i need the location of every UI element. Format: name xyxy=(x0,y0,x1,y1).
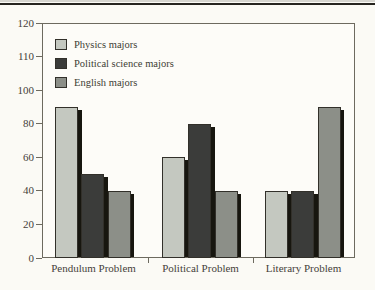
figure-top-rule xyxy=(0,3,375,5)
bar-english-majors-pendulum-problem xyxy=(108,191,131,258)
y-axis-tick-label: 100 xyxy=(6,85,34,96)
y-axis-tick-label: 40 xyxy=(6,185,34,196)
y-axis-tick xyxy=(36,224,42,225)
bar-physics-majors-political-problem xyxy=(162,157,185,258)
x-axis-category-label: Literary Problem xyxy=(244,262,364,274)
y-axis-tick-label: 110 xyxy=(6,51,34,62)
bar-physics-majors-literary-problem xyxy=(265,191,288,258)
y-axis-tick xyxy=(36,56,42,57)
x-axis-separator-tick xyxy=(253,258,254,263)
y-axis-tick xyxy=(36,23,42,24)
y-axis-tick-label: 20 xyxy=(6,219,34,230)
page-top-edge xyxy=(0,0,375,2)
legend-label: English majors xyxy=(74,77,137,88)
y-axis-tick-label: 0 xyxy=(6,253,34,264)
bar-political-science-majors-pendulum-problem xyxy=(81,174,104,258)
bar-english-majors-political-problem xyxy=(215,191,238,258)
bar-physics-majors-pendulum-problem xyxy=(55,107,78,258)
y-axis-tick-label: 120 xyxy=(6,18,34,29)
y-axis-tick xyxy=(36,157,42,158)
legend-item: Political science majors xyxy=(55,54,174,73)
y-axis-tick xyxy=(36,90,42,91)
bar-shadow xyxy=(238,194,242,257)
bar-political-science-majors-literary-problem xyxy=(291,191,314,258)
legend-swatch xyxy=(55,58,67,69)
legend-swatch xyxy=(55,77,67,88)
x-axis-separator-tick xyxy=(148,258,149,263)
scanned-bar-chart-figure: 120110100806040200 Pendulum ProblemPolit… xyxy=(0,0,375,290)
y-axis-tick-label: 60 xyxy=(6,152,34,163)
bar-political-science-majors-political-problem xyxy=(188,124,211,258)
x-axis-category-label: Political Problem xyxy=(141,262,261,274)
legend-label: Political science majors xyxy=(74,58,174,69)
legend-item: Physics majors xyxy=(55,35,174,54)
y-axis-tick xyxy=(36,123,42,124)
legend-item: English majors xyxy=(55,73,174,92)
x-axis-category-label: Pendulum Problem xyxy=(34,262,154,274)
y-axis-tick xyxy=(36,258,42,259)
legend-label: Physics majors xyxy=(74,39,137,50)
legend: Physics majorsPolitical science majorsEn… xyxy=(55,35,174,92)
y-axis-tick xyxy=(36,190,42,191)
bar-shadow xyxy=(341,110,345,257)
legend-swatch xyxy=(55,39,67,50)
y-axis-tick-label: 80 xyxy=(6,118,34,129)
bar-english-majors-literary-problem xyxy=(318,107,341,258)
bar-shadow xyxy=(131,194,135,257)
